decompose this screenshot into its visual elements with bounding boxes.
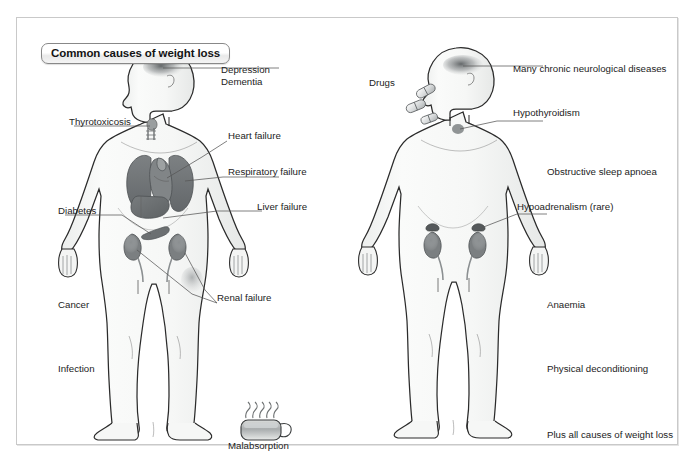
label-heart-failure: Heart failure [228,130,281,142]
label-anaemia: Anaemia [547,299,585,311]
label-obstructive-sleep-apnoea: Obstructive sleep apnoea [547,166,657,178]
hand-left [59,249,78,277]
human-body-outline-left [59,50,249,440]
label-hypoadrenalism: Hypoadrenalism (rare) [517,201,613,213]
label-renal-failure: Renal failure [217,292,271,304]
hand-right [530,247,549,275]
brain-shaded-region [443,55,483,75]
label-diabetes: Diabetes [58,205,96,217]
panel-weight-loss: Common causes of weight loss Depression … [17,18,347,444]
label-many-chronic-neurological-diseases: Many chronic neurological diseases [513,63,666,75]
fatigue-figure [347,18,677,442]
panel-fatigue: Common organic conditions causing fatigu… [347,18,677,444]
label-physical-deconditioning: Physical deconditioning [547,363,648,375]
liver [131,196,169,218]
label-hypothyroidism: Hypothyroidism [513,107,580,119]
label-cancer: Cancer [58,299,89,311]
label-malabsorption: Malabsorption [228,440,289,452]
label-dementia: Dementia [221,76,262,88]
label-liver-failure: Liver failure [257,201,307,213]
hand-right [230,249,249,277]
label-depression: Depression [221,64,270,76]
steaming-mug-icon [241,402,291,440]
label-infection: Infection [58,363,95,375]
weight-loss-figure [17,18,347,442]
panel-title-weight-loss: Common causes of weight loss [41,43,230,64]
label-respiratory-failure: Respiratory failure [228,166,307,178]
label-plus-all-causes-of-weight-loss: Plus all causes of weight loss [547,429,673,441]
hand-left [359,247,378,275]
label-thyrotoxicosis: Thyrotoxicosis [69,116,131,128]
thyroid-spot [452,124,464,134]
label-drugs: Drugs [369,77,395,89]
diagram-frame: Common causes of weight loss Depression … [16,17,678,445]
